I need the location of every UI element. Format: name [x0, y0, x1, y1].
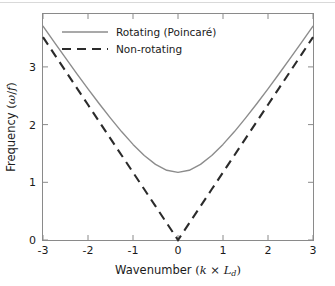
y-axis-title-prefix: Frequency: [4, 112, 18, 172]
y-axis-title: Frequency (ω/f): [4, 82, 18, 172]
x-tick-label: -1: [128, 244, 139, 257]
y-tick-label: 1: [29, 176, 36, 189]
svg-text:Frequency (ω/f): Frequency (ω/f): [4, 82, 18, 172]
x-tick-label: 0: [175, 244, 182, 257]
y-tick-labels: 0 1 2 3: [29, 61, 36, 247]
y-axis-paren-close: ): [4, 82, 18, 87]
x-axis-paren-close: ): [236, 263, 241, 277]
figure-container: -3 -2 -1 0 1 2 3 0 1 2 3 Rotating (Poinc…: [0, 0, 335, 286]
x-tick-label: 3: [310, 244, 317, 257]
x-axis-title: Wavenumber (k × Ld): [115, 263, 241, 278]
legend-label-non-rotating: Non-rotating: [116, 43, 182, 55]
x-tick-label: -3: [38, 244, 49, 257]
svg-text:Wavenumber (k × Ld): Wavenumber (k × Ld): [115, 263, 241, 278]
chart-legend: Rotating (Poincaré) Non-rotating: [62, 26, 216, 55]
legend-label-rotating: Rotating (Poincaré): [116, 26, 216, 38]
x-tick-labels: -3 -2 -1 0 1 2 3: [38, 244, 317, 257]
non-rotating-line: [43, 37, 313, 240]
x-tick-label: -2: [83, 244, 94, 257]
y-tick-label: 0: [29, 234, 36, 247]
x-axis-symbol-L: L: [223, 263, 232, 277]
y-tick-label: 2: [29, 119, 36, 132]
x-axis-title-prefix: Wavenumber: [115, 263, 192, 277]
y-tick-label: 3: [29, 61, 36, 74]
dispersion-relation-chart: -3 -2 -1 0 1 2 3 0 1 2 3 Rotating (Poinc…: [0, 0, 335, 286]
x-tick-label: 1: [220, 244, 227, 257]
series-non-rotating: [43, 37, 313, 240]
x-axis-symbol-k: k: [200, 263, 207, 277]
x-axis-symbol-times: ×: [210, 263, 220, 277]
y-axis-ticks: [43, 67, 313, 240]
x-tick-label: 2: [265, 244, 272, 257]
